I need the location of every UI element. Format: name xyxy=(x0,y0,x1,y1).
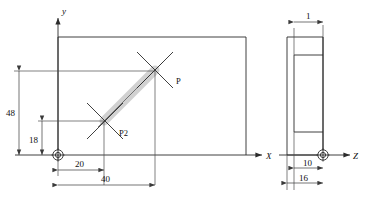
point-P-label: P xyxy=(176,76,181,86)
dimension-18: 18 xyxy=(29,121,42,155)
datum-origin-icon-side xyxy=(317,149,330,162)
side-view: Z 1 10 xyxy=(279,11,359,190)
x-axis-label: X xyxy=(265,151,272,161)
drawing-canvas: y X P xyxy=(0,0,365,200)
y-axis-label: y xyxy=(61,6,66,16)
z-axis-label: Z xyxy=(353,151,359,161)
dimension-48: 48 xyxy=(6,71,19,155)
dimension-10-text: 10 xyxy=(303,158,313,168)
workpiece-outline-side xyxy=(287,37,323,155)
point-P2-label: P2 xyxy=(119,128,128,138)
dimension-40: 40 xyxy=(58,174,155,185)
dimension-20: 20 xyxy=(58,155,104,176)
dimension-1-text: 1 xyxy=(306,11,311,21)
dimension-48-text: 48 xyxy=(6,108,16,118)
dimension-20-text: 20 xyxy=(75,159,85,169)
dimension-10: 10 xyxy=(294,158,323,168)
y-axis: y xyxy=(58,6,66,155)
dimension-16: 16 xyxy=(287,173,323,183)
workpiece-outline-front xyxy=(58,37,246,155)
dimension-16-text: 16 xyxy=(299,173,309,183)
dimension-1: 1 xyxy=(294,11,323,22)
dimension-40-text: 40 xyxy=(101,174,111,184)
front-view: y X P xyxy=(6,6,272,185)
dimension-18-text: 18 xyxy=(29,135,39,145)
